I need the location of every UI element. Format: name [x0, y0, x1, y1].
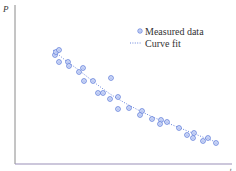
scatter-chart: P t Measured data Curve fit	[0, 0, 236, 171]
data-point-center	[58, 61, 59, 62]
legend-item-measured: Measured data	[138, 26, 204, 37]
data-point-center	[92, 80, 93, 81]
data-point-center	[186, 134, 187, 135]
data-point-center	[58, 49, 59, 50]
data-point-center	[97, 92, 98, 93]
data-point-center	[192, 137, 193, 138]
data-point-center	[117, 96, 118, 97]
data-point-center	[83, 80, 84, 81]
legend-label-curve-fit: Curve fit	[145, 38, 181, 49]
data-point-center	[82, 67, 83, 68]
y-axis-label: P	[2, 4, 9, 14]
data-point-center	[178, 127, 179, 128]
data-point-center	[117, 108, 118, 109]
data-point-center	[202, 140, 203, 141]
data-point-center	[128, 107, 129, 108]
data-point-center	[55, 51, 56, 52]
measured-data-points	[53, 48, 219, 146]
data-point-center	[207, 137, 208, 138]
data-point-center	[166, 121, 167, 122]
data-point-center	[110, 77, 111, 78]
data-point-center	[68, 65, 69, 66]
x-axis-label: t	[230, 167, 232, 171]
data-point-center	[139, 114, 140, 115]
data-point-center	[151, 118, 152, 119]
data-point-center	[193, 132, 194, 133]
data-point-center	[141, 110, 142, 111]
curve-fit-line	[53, 50, 216, 142]
data-point-center	[102, 92, 103, 93]
data-point-center	[67, 61, 68, 62]
legend-item-curve-fit: Curve fit	[130, 38, 181, 49]
data-point-center	[78, 71, 79, 72]
data-point-center	[160, 119, 161, 120]
legend: Measured data Curve fit	[130, 26, 204, 49]
data-point-center	[109, 98, 110, 99]
data-point-center	[215, 142, 216, 143]
legend-label-measured: Measured data	[145, 26, 204, 37]
data-point-center	[159, 123, 160, 124]
